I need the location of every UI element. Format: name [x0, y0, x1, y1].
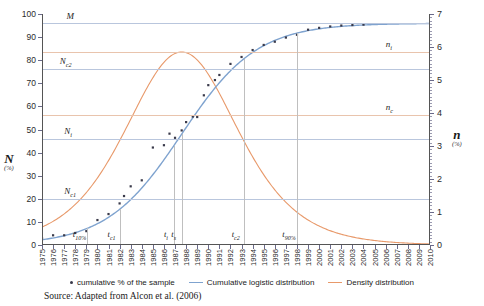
x-axis-tick-label: 1986: [159, 249, 168, 266]
x-axis-tick-label: 1979: [82, 249, 91, 266]
x-axis-tick-label: 1984: [137, 249, 146, 266]
x-axis-tick-label: 1987: [171, 249, 180, 266]
x-axis-tick-label: 2005: [370, 249, 379, 266]
y-axis-right-minor-tick: [430, 159, 432, 160]
y-axis-right-minor-tick: [430, 27, 432, 28]
y-axis-right-tick: [430, 47, 434, 48]
time-marker-label: t10%: [73, 229, 86, 241]
legend-line-icon: [189, 282, 203, 284]
y-axis-left-tick: [38, 176, 42, 177]
y-axis-right-minor-tick: [430, 40, 432, 41]
y-axis-right-tick-label: 7: [437, 9, 442, 19]
y-axis-right-minor-tick: [430, 67, 432, 68]
y-axis-right-minor-tick: [430, 232, 432, 233]
x-axis-tick-label: 2004: [359, 249, 368, 266]
reference-level-label: ni: [386, 39, 392, 51]
y-axis-right-minor-tick: [430, 57, 432, 58]
y-axis-right-minor-tick: [430, 64, 432, 65]
x-axis-tick-label: 2001: [326, 249, 335, 266]
x-axis-tick-label: 1983: [126, 249, 135, 266]
legend-item: cumulative % of the sample: [70, 278, 175, 287]
y-axis-left-tick: [38, 130, 42, 131]
y-axis-left-tick-label: 100: [22, 9, 36, 19]
y-axis-right-minor-tick: [430, 163, 432, 164]
time-marker-label: ti: [164, 229, 168, 241]
y-axis-right-tick: [430, 113, 434, 114]
y-axis-right-minor-tick: [430, 219, 432, 220]
y-axis-right-minor-tick: [430, 126, 432, 127]
x-axis-tick-label: 1980: [93, 249, 102, 266]
y-axis-right-tick: [430, 14, 434, 15]
y-axis-left-tick-label: 90: [27, 32, 36, 42]
y-axis-right-minor-tick: [430, 83, 432, 84]
y-axis-left-tick-label: 10: [27, 217, 36, 227]
y-axis-right-tick: [430, 212, 434, 213]
x-axis-tick-label: 1999: [304, 249, 313, 266]
y-axis-right-minor-tick: [430, 192, 432, 193]
y-axis-left-tick-label: 20: [27, 194, 36, 204]
y-axis-right-minor-tick: [430, 103, 432, 104]
x-axis-tick-label: 1976: [49, 249, 58, 266]
x-axis-tick-label: 2008: [403, 249, 412, 266]
y-axis-right-minor-tick: [430, 189, 432, 190]
legend-label: cumulative % of the sample: [77, 278, 175, 287]
y-axis-left-tick-label: 50: [27, 125, 36, 135]
y-axis-right-minor-tick: [430, 77, 432, 78]
y-axis-left-tick: [38, 60, 42, 61]
y-axis-right-minor-tick: [430, 17, 432, 18]
x-axis-tick-label: 2009: [414, 249, 423, 266]
x-axis-tick-label: 1997: [281, 249, 290, 266]
x-axis-tick-label: 1977: [60, 249, 69, 266]
y-axis-right-title: n (%): [452, 128, 462, 148]
y-axis-right-minor-tick: [430, 93, 432, 94]
y-axis-left-tick-label: 0: [31, 240, 36, 250]
y-axis-right-minor-tick: [430, 229, 432, 230]
y-axis-right-minor-tick: [430, 21, 432, 22]
x-axis-tick-label: 1981: [104, 249, 113, 266]
y-axis-right-minor-tick: [430, 182, 432, 183]
y-axis-right-minor-tick: [430, 202, 432, 203]
x-axis-tick-label: 1989: [193, 249, 202, 266]
x-axis-tick-label: 1992: [226, 249, 235, 266]
legend-item: Density distribution: [328, 278, 414, 287]
y-axis-right-tick-label: 2: [437, 174, 442, 184]
y-axis-right-minor-tick: [430, 156, 432, 157]
y-axis-right-minor-tick: [430, 116, 432, 117]
y-axis-right-minor-tick: [430, 176, 432, 177]
y-axis-left-tick-label: 60: [27, 101, 36, 111]
y-axis-right-minor-tick: [430, 225, 432, 226]
x-axis-tick-label: 1996: [270, 249, 279, 266]
reference-level-label: Ni: [64, 126, 72, 138]
plot-frame: [42, 14, 430, 245]
y-axis-left-tick: [38, 14, 42, 15]
time-marker-label: tc1: [108, 229, 116, 241]
y-axis-right-minor-tick: [430, 100, 432, 101]
x-axis-tick-label: 2002: [337, 249, 346, 266]
y-axis-right-minor-tick: [430, 73, 432, 74]
y-axis-right-minor-tick: [430, 106, 432, 107]
y-axis-left-tick: [38, 83, 42, 84]
y-axis-right-minor-tick: [430, 70, 432, 71]
x-axis-tick-label: 1975: [38, 249, 47, 266]
y-axis-right-minor-tick: [430, 60, 432, 61]
x-axis-tick-label: 1995: [259, 249, 268, 266]
y-axis-right-tick-label: 3: [437, 141, 442, 151]
y-axis-right-minor-tick: [430, 120, 432, 121]
y-axis-right-minor-tick: [430, 149, 432, 150]
y-axis-right-minor-tick: [430, 166, 432, 167]
y-axis-right-minor-tick: [430, 31, 432, 32]
y-axis-right-minor-tick: [430, 242, 432, 243]
time-marker-label: ts: [171, 229, 176, 241]
figure-container: N (%) n (%) 0102030405060708090100 01234…: [0, 0, 484, 306]
y-axis-right-minor-tick: [430, 153, 432, 154]
y-axis-right-minor-tick: [430, 143, 432, 144]
x-axis-tick-label: 1994: [248, 249, 257, 266]
y-axis-right-minor-tick: [430, 169, 432, 170]
y-axis-left-tick-label: 80: [27, 55, 36, 65]
source-caption: Source: Adapted from Alcon et al. (2006): [44, 291, 202, 301]
y-axis-right-minor-tick: [430, 97, 432, 98]
y-axis-left-tick: [38, 199, 42, 200]
y-axis-right-minor-tick: [430, 34, 432, 35]
y-axis-right-tick: [430, 179, 434, 180]
y-axis-right-minor-tick: [430, 238, 432, 239]
